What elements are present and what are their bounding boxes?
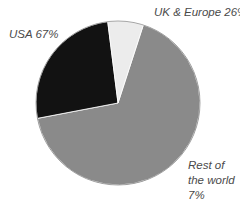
label-usa: USA 67% <box>9 27 58 42</box>
label-uk-europe: UK & Europe 26% <box>154 5 240 20</box>
label-rest-line-3: 7% <box>188 188 235 203</box>
label-rest-of-world: Rest of the world 7% <box>188 158 235 203</box>
label-rest-line-2: the world <box>188 173 235 188</box>
label-rest-line-1: Rest of <box>188 158 235 173</box>
